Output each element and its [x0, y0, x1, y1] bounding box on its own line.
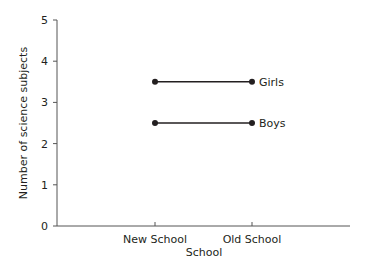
series-label-boys: Boys [259, 117, 286, 130]
x-tick-label: New School [123, 233, 187, 246]
data-point [249, 120, 255, 126]
y-tick-label: 3 [41, 96, 48, 109]
y-tick-label: 1 [41, 179, 48, 192]
x-axis-label: School [186, 246, 223, 259]
series-label-girls: Girls [259, 76, 284, 89]
chart: 012345 New SchoolOld School Number of sc… [0, 0, 367, 276]
data-point [152, 120, 158, 126]
x-axis: New SchoolOld School [57, 222, 350, 246]
x-tick-label: Old School [223, 233, 282, 246]
series-group: GirlsBoys [152, 76, 286, 130]
y-axis: 012345 [41, 14, 57, 233]
data-point [249, 79, 255, 85]
data-point [152, 79, 158, 85]
y-axis-label: Number of science subjects [17, 47, 30, 200]
y-tick-label: 0 [41, 220, 48, 233]
y-tick-label: 4 [41, 55, 48, 68]
y-tick-label: 5 [41, 14, 48, 27]
y-tick-label: 2 [41, 138, 48, 151]
